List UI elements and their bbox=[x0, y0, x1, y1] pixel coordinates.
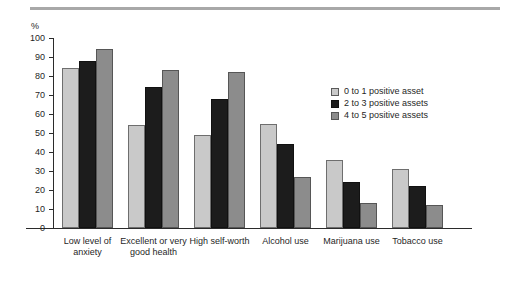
y-axis-tick bbox=[49, 76, 54, 77]
y-axis-tick-label: 60 bbox=[23, 110, 45, 119]
legend-item: 2 to 3 positive assets bbox=[331, 98, 428, 109]
y-axis-tick-label: 90 bbox=[23, 53, 45, 62]
bar-group-bars bbox=[194, 38, 245, 228]
bar-group-bars bbox=[326, 38, 377, 228]
legend-swatch-gray-icon bbox=[331, 112, 339, 120]
y-axis-tick bbox=[49, 152, 54, 153]
legend-item-label: 2 to 3 positive assets bbox=[344, 99, 428, 108]
y-axis-tick-label: 70 bbox=[23, 91, 45, 100]
y-axis-tick bbox=[49, 133, 54, 134]
bar-group-bars bbox=[128, 38, 179, 228]
y-axis-tick-label: 20 bbox=[23, 186, 45, 195]
bar bbox=[260, 124, 277, 229]
bar bbox=[128, 125, 145, 228]
y-axis-tick-label: 100 bbox=[23, 34, 45, 43]
bar bbox=[277, 144, 294, 228]
legend-item: 4 to 5 positive assets bbox=[331, 110, 428, 121]
bar bbox=[294, 177, 311, 228]
y-axis-tick bbox=[49, 57, 54, 58]
legend-item: 0 to 1 positive asset bbox=[331, 86, 428, 97]
bar bbox=[162, 70, 179, 228]
y-axis-tick bbox=[49, 228, 54, 229]
y-axis-tick-label: 30 bbox=[23, 167, 45, 176]
legend-item-label: 4 to 5 positive assets bbox=[344, 111, 428, 120]
bar bbox=[360, 203, 377, 228]
x-axis-baseline bbox=[26, 228, 472, 229]
bar bbox=[426, 205, 443, 228]
chart-figure: % 1009080706050403020100 Low level of an… bbox=[0, 0, 506, 284]
plot-area: 1009080706050403020100 Low level of anxi… bbox=[54, 38, 488, 228]
bar bbox=[145, 87, 162, 228]
bar bbox=[96, 49, 113, 228]
y-axis-tick-label: 0 bbox=[23, 224, 45, 233]
bar bbox=[79, 61, 96, 228]
chart-legend: 0 to 1 positive asset2 to 3 positive ass… bbox=[331, 86, 428, 122]
y-axis-tick bbox=[49, 171, 54, 172]
y-axis-tick bbox=[49, 95, 54, 96]
bar bbox=[194, 135, 211, 228]
y-axis-tick-label: 80 bbox=[23, 72, 45, 81]
y-axis-tick bbox=[49, 114, 54, 115]
y-axis-tick bbox=[49, 38, 54, 39]
bar-group-bars bbox=[260, 38, 311, 228]
y-axis-tick bbox=[49, 190, 54, 191]
x-axis-category-label: High self-worth bbox=[184, 236, 255, 247]
y-axis-tick-label: 10 bbox=[23, 205, 45, 214]
legend-swatch-dark-icon bbox=[331, 100, 339, 108]
y-axis-tick-label: 40 bbox=[23, 148, 45, 157]
x-axis-category-label: Marijuana use bbox=[316, 236, 387, 247]
y-axis-tick-label: 50 bbox=[23, 129, 45, 138]
y-axis-unit-label: % bbox=[31, 22, 39, 31]
y-axis-tick bbox=[49, 209, 54, 210]
x-axis-category-label: Alcohol use bbox=[250, 236, 321, 247]
bar bbox=[343, 182, 360, 228]
legend-item-label: 0 to 1 positive asset bbox=[344, 87, 424, 96]
x-axis-category-label: Tobacco use bbox=[382, 236, 453, 247]
bar-group-bars bbox=[62, 38, 113, 228]
bar bbox=[211, 99, 228, 228]
top-divider-rule bbox=[30, 7, 500, 10]
bar bbox=[392, 169, 409, 228]
x-axis-category-label: Excellent or very good health bbox=[118, 236, 189, 258]
legend-swatch-light-icon bbox=[331, 88, 339, 96]
x-axis-category-label: Low level of anxiety bbox=[52, 236, 123, 258]
bar bbox=[326, 160, 343, 228]
bar bbox=[228, 72, 245, 228]
bar bbox=[409, 186, 426, 228]
bar-group-bars bbox=[392, 38, 443, 228]
bar bbox=[62, 68, 79, 228]
